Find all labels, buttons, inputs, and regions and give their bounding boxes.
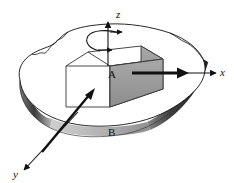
label-block-a: A	[108, 68, 116, 80]
figure-container: z x y A B	[0, 0, 234, 183]
diagram-canvas: z x y A B	[0, 0, 234, 183]
axis-label-z: z	[115, 8, 121, 20]
axis-label-x: x	[219, 66, 225, 78]
axis-label-y: y	[12, 168, 18, 180]
label-surface-b: B	[108, 126, 115, 138]
